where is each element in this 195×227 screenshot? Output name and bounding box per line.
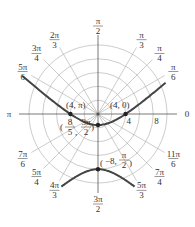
- angle-label: π: [7, 109, 12, 119]
- svg-text:): ): [91, 122, 94, 132]
- svg-text:3: 3: [139, 190, 144, 200]
- svg-text:3π: 3π: [81, 117, 91, 127]
- svg-text:4: 4: [34, 53, 39, 63]
- radial-tick-label: 4: [127, 116, 132, 126]
- angle-label: 3π: [32, 43, 42, 53]
- svg-text:4: 4: [157, 177, 162, 187]
- angle-label: π: [157, 43, 162, 53]
- svg-text:6: 6: [20, 72, 25, 82]
- angle-label: π: [171, 62, 176, 72]
- svg-text:4: 4: [34, 177, 39, 187]
- svg-text:−8,: −8,: [105, 156, 117, 166]
- point-label: (: [100, 158, 103, 168]
- point-label: (4, 0): [110, 100, 130, 110]
- angle-label: 5π: [137, 180, 147, 190]
- point-label: (: [60, 122, 63, 132]
- svg-text:3: 3: [139, 40, 144, 50]
- svg-text:): ): [129, 158, 132, 168]
- svg-text:2: 2: [84, 127, 89, 137]
- svg-text:2: 2: [122, 160, 127, 170]
- data-point: [68, 112, 72, 116]
- angle-label: 4π: [50, 180, 60, 190]
- point-label: (4, π): [66, 100, 86, 110]
- angle-label: 7π: [155, 167, 165, 177]
- grid-ray: [98, 76, 165, 115]
- svg-text:6: 6: [20, 159, 25, 169]
- grid-ray: [31, 76, 98, 115]
- svg-text:5: 5: [68, 127, 73, 137]
- angle-label: 0: [185, 109, 190, 119]
- data-point: [96, 123, 100, 127]
- svg-text:3: 3: [52, 190, 57, 200]
- svg-text:3: 3: [52, 40, 57, 50]
- svg-text:2: 2: [96, 26, 101, 36]
- angle-label: π: [96, 16, 101, 26]
- data-point: [123, 112, 127, 116]
- svg-text:4: 4: [157, 53, 162, 63]
- angle-label: 2π: [50, 30, 60, 40]
- angle-label: 11π: [167, 149, 181, 159]
- svg-text:6: 6: [171, 72, 176, 82]
- svg-text:8: 8: [68, 117, 73, 127]
- svg-text:,: ,: [75, 127, 77, 137]
- svg-text:6: 6: [171, 159, 176, 169]
- origin-point: [96, 112, 99, 115]
- svg-text:π: π: [122, 150, 127, 160]
- angle-label: 3π: [93, 194, 103, 204]
- polar-plot: 48 (4, π)(4, 0)(85,3π2)(−8,π2) 0π6π4π3π2…: [0, 0, 195, 227]
- angle-label: 5π: [18, 62, 28, 72]
- svg-text:2: 2: [96, 204, 101, 214]
- angle-label: π: [139, 30, 144, 40]
- radial-tick-label: 8: [154, 116, 159, 126]
- angle-label: 5π: [32, 167, 42, 177]
- angle-label: 7π: [18, 149, 28, 159]
